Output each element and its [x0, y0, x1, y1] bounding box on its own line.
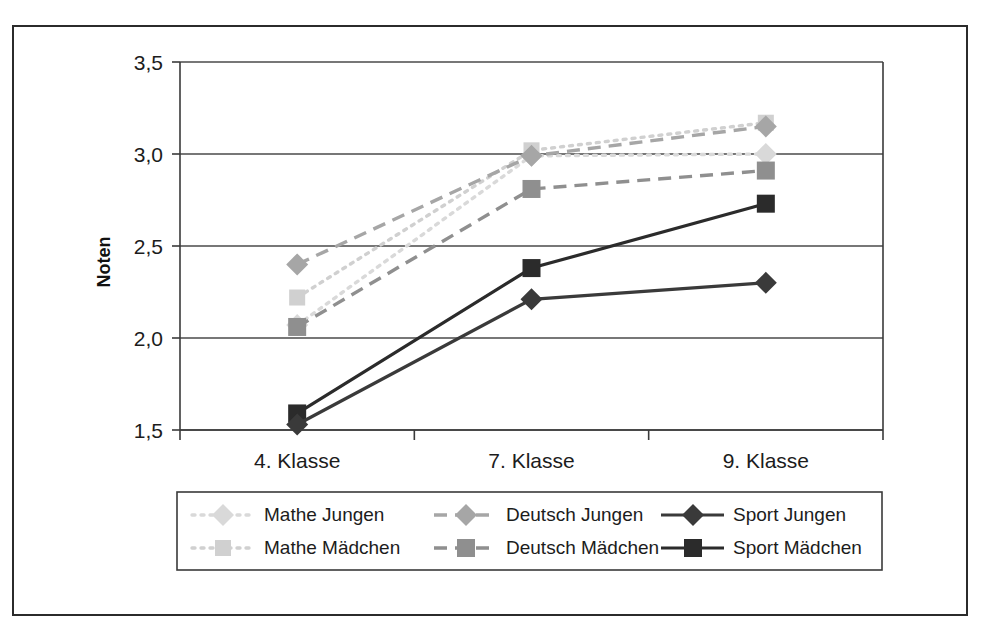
legend-label-mathe-maedchen: Mathe Mädchen — [264, 537, 400, 558]
y-tick-label-2-5: 2,5 — [134, 235, 163, 258]
gridlines — [180, 62, 883, 430]
line-chart: 3,5 3,0 2,5 2,0 1,5 Noten 4. Klasse 7. K… — [0, 0, 984, 634]
legend-label-deutsch-jungen: Deutsch Jungen — [506, 504, 643, 525]
marker-diamond-sport-jungen-1 — [521, 288, 543, 310]
legend-marker-square-sport-maedchen — [684, 539, 702, 557]
legend-item-mathe-jungen[interactable]: Mathe Jungen — [192, 504, 384, 526]
y-tick-marks — [172, 62, 180, 430]
marker-square-mathe-maedchen-0 — [289, 290, 305, 306]
marker-diamond-deutsch-jungen-0 — [286, 253, 308, 275]
legend-item-mathe-maedchen[interactable]: Mathe Mädchen — [192, 537, 400, 558]
legend-marker-diamond-mathe-jungen — [212, 504, 234, 526]
y-tick-label-1-5: 1,5 — [134, 419, 163, 442]
x-tick-labels: 4. Klasse 7. Klasse 9. Klasse — [254, 449, 809, 472]
legend-label-sport-jungen: Sport Jungen — [733, 504, 846, 525]
legend-marker-diamond-deutsch-jungen — [455, 504, 477, 526]
x-tick-label-0: 4. Klasse — [254, 449, 340, 472]
marker-diamond-sport-jungen-2 — [755, 272, 777, 294]
chart-figure: 3,5 3,0 2,5 2,0 1,5 Noten 4. Klasse 7. K… — [0, 0, 984, 634]
legend-item-sport-maedchen[interactable]: Sport Mädchen — [661, 537, 862, 558]
y-tick-labels: 3,5 3,0 2,5 2,0 1,5 — [134, 51, 163, 442]
legend-marker-diamond-sport-jungen — [682, 504, 704, 526]
y-tick-label-3-0: 3,0 — [134, 143, 163, 166]
legend-label-mathe-jungen: Mathe Jungen — [264, 504, 384, 525]
legend-item-sport-jungen[interactable]: Sport Jungen — [661, 504, 846, 526]
x-tick-label-2: 9. Klasse — [723, 449, 809, 472]
y-tick-label-2-0: 2,0 — [134, 327, 163, 350]
legend-item-deutsch-maedchen[interactable]: Deutsch Mädchen — [434, 537, 659, 558]
y-tick-label-3-5: 3,5 — [134, 51, 163, 74]
chart-legend: Mathe Jungen Deutsch Jungen Sport Jungen… — [177, 492, 882, 570]
legend-marker-square-deutsch-maedchen — [457, 539, 475, 557]
marker-square-deutsch-maedchen-2 — [757, 162, 775, 180]
legend-label-deutsch-maedchen: Deutsch Mädchen — [506, 537, 659, 558]
x-tick-label-1: 7. Klasse — [488, 449, 574, 472]
legend-label-sport-maedchen: Sport Mädchen — [733, 537, 862, 558]
series-sport-jungen — [286, 272, 777, 436]
legend-marker-square-mathe-maedchen — [215, 540, 231, 556]
marker-square-deutsch-maedchen-0 — [288, 318, 306, 336]
marker-square-sport-maedchen-1 — [523, 259, 541, 277]
marker-square-deutsch-maedchen-1 — [523, 180, 541, 198]
marker-square-sport-maedchen-2 — [757, 195, 775, 213]
y-axis-title: Noten — [94, 237, 114, 288]
x-tick-marks — [180, 430, 883, 440]
legend-item-deutsch-jungen[interactable]: Deutsch Jungen — [434, 504, 643, 526]
